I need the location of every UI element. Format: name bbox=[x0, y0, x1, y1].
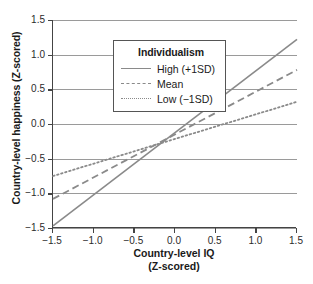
legend-line-sample-solid bbox=[121, 64, 151, 74]
x-axis-tick-label: −1.5 bbox=[32, 235, 72, 246]
x-axis-tick bbox=[255, 228, 256, 233]
y-axis-tick-label: 0.5 bbox=[0, 84, 45, 94]
x-axis-tick bbox=[215, 228, 216, 233]
x-axis-tick-label: 1.5 bbox=[276, 235, 313, 246]
y-axis-tick-label: 1.0 bbox=[0, 50, 45, 60]
x-axis-title-line1: Country-level IQ bbox=[52, 247, 296, 260]
x-axis-tick-label: 0.5 bbox=[195, 235, 235, 246]
legend-item-label: High (+1SD) bbox=[157, 63, 215, 75]
legend-line-sample-dotted bbox=[121, 94, 151, 104]
legend-item: Low (−1SD) bbox=[121, 91, 219, 106]
x-axis-tick-label: −1.0 bbox=[73, 235, 113, 246]
legend-item: High (+1SD) bbox=[121, 61, 219, 76]
y-axis-tick-label: −0.5 bbox=[0, 154, 45, 164]
x-axis-tick bbox=[133, 228, 134, 233]
legend-item-label: Low (−1SD) bbox=[157, 93, 213, 105]
x-axis-title-line2: (Z-scored) bbox=[52, 260, 296, 273]
legend-line-sample-dashed bbox=[121, 79, 151, 89]
x-axis-tick-label: −0.5 bbox=[113, 235, 153, 246]
x-axis-tick-label: 0.0 bbox=[154, 235, 194, 246]
x-axis-tick bbox=[52, 228, 53, 233]
legend-title: Individualism bbox=[123, 46, 219, 58]
y-axis-tick-labels: −1.5−1.0−0.50.00.51.01.5 bbox=[0, 20, 47, 228]
x-axis-tick bbox=[93, 228, 94, 233]
chart-figure: Country-level happiness (Z-scored) −1.5−… bbox=[0, 0, 313, 284]
y-axis-tick-label: 1.5 bbox=[0, 15, 45, 25]
legend: Individualism High (+1SD)MeanLow (−1SD) bbox=[113, 40, 226, 112]
legend-item: Mean bbox=[121, 76, 219, 91]
x-axis-tick bbox=[296, 228, 297, 233]
y-axis-tick-label: −1.5 bbox=[0, 223, 45, 233]
legend-items: High (+1SD)MeanLow (−1SD) bbox=[121, 61, 219, 106]
x-axis-tick bbox=[174, 228, 175, 233]
plot-area: Individualism High (+1SD)MeanLow (−1SD) bbox=[52, 20, 296, 228]
y-axis-tick-label: −1.0 bbox=[0, 188, 45, 198]
legend-item-label: Mean bbox=[157, 78, 183, 90]
y-axis-tick-label: 0.0 bbox=[0, 119, 45, 129]
x-axis-tick-label: 1.0 bbox=[235, 235, 275, 246]
series-line bbox=[53, 102, 297, 176]
x-axis-title: Country-level IQ (Z-scored) bbox=[52, 247, 296, 273]
